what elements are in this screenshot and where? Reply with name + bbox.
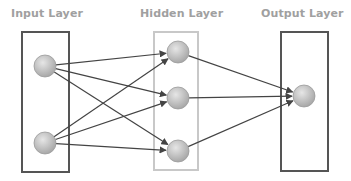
- node-o1-icon: [293, 85, 315, 107]
- neural-network-diagram: Input Layer Hidden Layer Output Layer: [0, 0, 351, 181]
- edge-i1-h1: [56, 53, 166, 65]
- node-h1-icon: [167, 41, 189, 63]
- hidden-layer-label: Hidden Layer: [140, 7, 223, 20]
- node-h3-icon: [167, 140, 189, 162]
- edge-i2-h3: [56, 144, 166, 151]
- node-h2-icon: [167, 87, 189, 109]
- edge-i1-h2: [56, 69, 167, 96]
- node-i2-icon: [34, 132, 56, 154]
- edge-h2-o1: [189, 96, 292, 98]
- output-layer-label: Output Layer: [261, 7, 344, 20]
- edge-h1-o1: [188, 56, 292, 92]
- input-layer-label: Input Layer: [11, 7, 83, 20]
- network-graph: [0, 0, 351, 181]
- edge-i2-h1: [54, 59, 168, 137]
- neuron-nodes: [34, 41, 315, 162]
- node-i1-icon: [34, 55, 56, 77]
- edge-h3-o1: [188, 101, 293, 147]
